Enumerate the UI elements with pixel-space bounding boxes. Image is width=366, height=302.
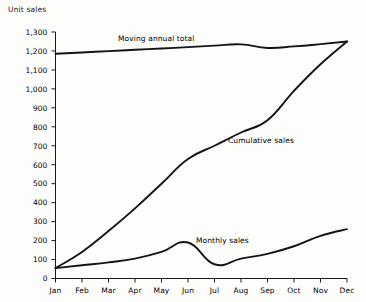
- y-axis-tick-label: 1,200: [26, 47, 48, 56]
- y-axis-tick-label: 900: [33, 104, 48, 113]
- x-axis-tick-label: Aug: [234, 286, 249, 295]
- y-axis-tick-label: 600: [33, 161, 48, 170]
- y-axis-tick-marks: [52, 32, 56, 279]
- chart-container: Unit sales 01002003004005006007008009001…: [0, 0, 366, 302]
- y-axis-tick-label: 700: [33, 142, 48, 151]
- series-annotation-label: Cumulative sales: [228, 136, 294, 145]
- x-axis-tick-labels: JanFebMarAprMayJunJulAugSepOctNovDec: [49, 286, 355, 295]
- x-axis-tick-label: Jul: [209, 286, 219, 295]
- y-axis-tick-label: 500: [33, 179, 48, 188]
- y-axis-tick-labels: 01002003004005006007008009001,0001,1001,…: [26, 28, 48, 283]
- x-axis-tick-label: Dec: [340, 286, 355, 295]
- x-axis-tick-label: Jun: [181, 286, 194, 295]
- series-lines: [56, 41, 348, 268]
- y-axis-tick-label: 400: [33, 198, 48, 207]
- series-annotation-label: Monthly sales: [196, 236, 249, 245]
- y-axis-tick-label: 1,100: [26, 66, 48, 75]
- x-axis-tick-label: May: [154, 286, 170, 295]
- y-axis-tick-label: 800: [33, 123, 48, 132]
- y-axis-tick-label: 100: [33, 255, 48, 264]
- x-axis-tick-marks: [56, 279, 348, 283]
- line-chart: 01002003004005006007008009001,0001,1001,…: [0, 0, 366, 302]
- x-axis-tick-label: Feb: [75, 286, 89, 295]
- x-axis-tick-label: Mar: [101, 286, 116, 295]
- x-axis-tick-label: Jan: [49, 286, 62, 295]
- y-axis-tick-label: 0: [43, 274, 48, 283]
- y-axis-tick-label: 300: [33, 217, 48, 226]
- y-axis-tick-label: 1,300: [26, 28, 48, 37]
- x-axis-tick-label: Apr: [128, 286, 142, 295]
- data-line: [56, 41, 348, 268]
- series-annotations: Moving annual totalCumulative salesMonth…: [118, 34, 294, 245]
- data-line: [56, 41, 348, 53]
- y-axis-tick-label: 1,000: [26, 85, 48, 94]
- x-axis-tick-label: Sep: [260, 286, 275, 295]
- y-axis-tick-label: 200: [33, 236, 48, 245]
- x-axis-tick-label: Oct: [287, 286, 300, 295]
- x-axis-tick-label: Nov: [313, 286, 328, 295]
- series-annotation-label: Moving annual total: [118, 34, 194, 43]
